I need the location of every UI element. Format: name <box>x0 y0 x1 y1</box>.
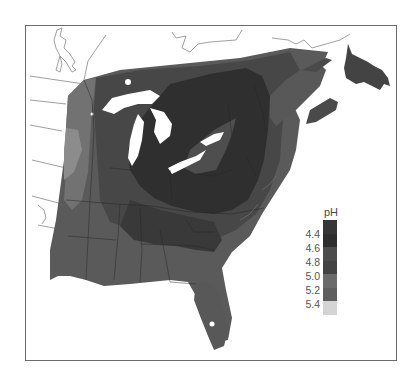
lake-okeechobee <box>210 322 215 327</box>
lake-nipigon <box>125 79 131 85</box>
legend-swatch-1 <box>323 234 337 248</box>
ph-regions <box>50 44 390 350</box>
legend-swatch-0 <box>323 220 337 234</box>
ph-map <box>0 0 418 382</box>
legend-swatch-2 <box>323 247 337 261</box>
region-newfoundland <box>344 44 390 90</box>
legend-label-5.2: 5.2 <box>296 284 320 296</box>
legend-swatch-3 <box>323 261 337 275</box>
legend-swatch-6 <box>323 301 337 315</box>
legend-label-5.0: 5.0 <box>296 270 320 282</box>
legend-swatch-4 <box>323 274 337 288</box>
legend-label-4.8: 4.8 <box>296 256 320 268</box>
legend-label-5.4: 5.4 <box>296 298 320 310</box>
legend-swatch-5 <box>323 288 337 302</box>
region-nova-scotia <box>306 98 338 124</box>
legend-title: pH <box>324 206 338 218</box>
legend-color-bar <box>323 220 337 315</box>
legend-label-4.4: 4.4 <box>296 228 320 240</box>
legend-label-4.6: 4.6 <box>296 242 320 254</box>
